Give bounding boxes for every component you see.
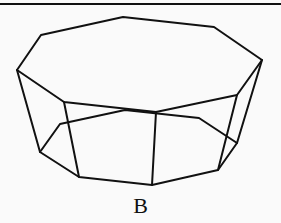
lateral-edge <box>64 102 79 177</box>
prism-wireframe <box>17 17 262 185</box>
lateral-edge <box>237 60 262 143</box>
octagonal-prism-figure <box>0 0 281 223</box>
top-face <box>17 17 262 112</box>
figure-label: B <box>0 193 281 219</box>
bottom-face <box>40 110 237 185</box>
lateral-edge <box>152 112 156 185</box>
